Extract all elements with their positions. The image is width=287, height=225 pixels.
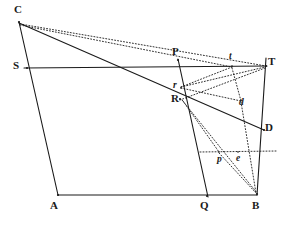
point-dot-S bbox=[26, 67, 28, 69]
point-dot-p bbox=[218, 151, 220, 153]
solid-line-layer bbox=[19, 22, 267, 197]
label-S: S bbox=[13, 60, 19, 71]
label-p: p bbox=[217, 155, 222, 165]
figure-canvas bbox=[0, 0, 287, 225]
label-t: t bbox=[229, 52, 232, 62]
geometric-figure: CSAQBTDPRrtdpe bbox=[0, 0, 287, 225]
dotted-line-r-b bbox=[182, 100, 257, 193]
point-dot-R bbox=[179, 98, 181, 100]
label-r: r bbox=[173, 81, 177, 91]
label-A: A bbox=[50, 200, 58, 211]
point-dot-P bbox=[177, 59, 179, 61]
dotted-line-c-t bbox=[20, 25, 232, 67]
point-dot-C bbox=[18, 21, 20, 23]
dotted-line-r-t bbox=[181, 67, 232, 87]
vertex-dot-layer bbox=[18, 21, 267, 197]
label-e: e bbox=[236, 154, 240, 164]
point-dot-t bbox=[231, 65, 233, 67]
point-dot-Q bbox=[206, 195, 208, 197]
label-R: R bbox=[171, 93, 179, 104]
dotted-line-r-p bbox=[183, 101, 219, 152]
point-dot-A bbox=[57, 194, 59, 196]
label-d: d bbox=[239, 98, 244, 108]
point-dot-T bbox=[265, 65, 267, 67]
point-dot-r bbox=[180, 87, 182, 89]
solid-line-c-a bbox=[19, 22, 58, 195]
solid-line-s-t bbox=[24, 66, 267, 68]
dotted-line-layer bbox=[20, 24, 277, 193]
label-D: D bbox=[265, 122, 273, 133]
label-T: T bbox=[268, 56, 275, 67]
label-Q: Q bbox=[200, 200, 209, 211]
solid-line-c-d bbox=[19, 23, 264, 130]
point-dot-B bbox=[256, 193, 258, 195]
dotted-line-r-d bbox=[181, 88, 241, 101]
solid-line-p-q bbox=[178, 59, 208, 197]
label-B: B bbox=[252, 200, 259, 211]
label-C: C bbox=[14, 4, 22, 15]
label-P: P bbox=[172, 46, 179, 57]
